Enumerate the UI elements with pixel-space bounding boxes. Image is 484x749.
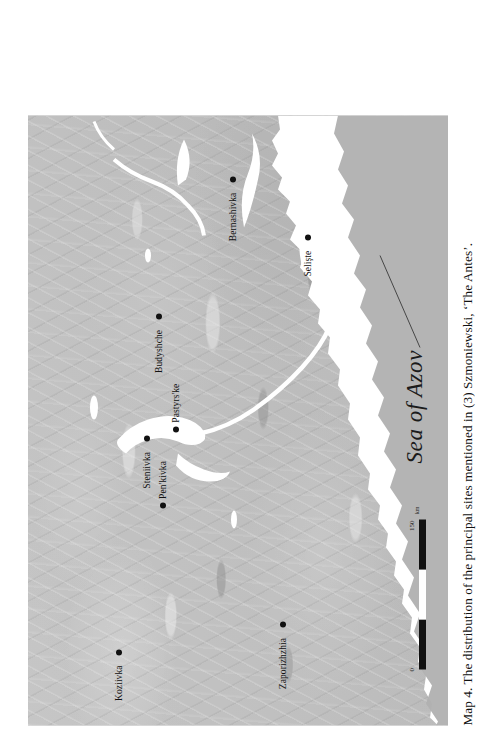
water-bodies (28, 115, 448, 725)
dnieper-reservoir-shape (117, 415, 205, 453)
site-label: Selişte (303, 250, 313, 276)
site-dot-icon (144, 435, 150, 441)
dnieper-reservoir-tail (176, 453, 230, 481)
site-label: Pen'kivka (158, 460, 168, 498)
western-river-2 (94, 121, 114, 149)
map-image: Sea of Azov KoziivkaPen'kivkaSteniivkaPa… (28, 115, 448, 725)
site-dot-icon (173, 426, 179, 432)
site-dot-icon (280, 621, 286, 627)
page-canvas: Sea of Azov KoziivkaPen'kivkaSteniivkaPa… (0, 0, 484, 749)
scale-segment (419, 619, 426, 669)
scale-bar: 0 150 km (409, 519, 426, 669)
scale-unit-label: km (414, 506, 420, 514)
lagoon-streak-2 (242, 133, 260, 227)
lake-1 (90, 395, 98, 419)
scale-bar-ticks: 0 150 km (409, 519, 419, 669)
lake-2 (231, 510, 237, 528)
figure-plate: Sea of Azov KoziivkaPen'kivkaSteniivkaPa… (0, 0, 484, 749)
site-label: Budyshche (154, 329, 164, 372)
site-label: Steniivka (142, 451, 152, 488)
site-dot-icon (156, 313, 162, 319)
site-dot-icon (116, 649, 122, 655)
lagoon-streak-3 (177, 139, 190, 185)
western-river (114, 159, 204, 235)
scale-bar-segments (419, 519, 426, 669)
site-dot-icon (230, 176, 236, 182)
dnieper-channel (200, 325, 330, 433)
site-label: Koziivka (114, 665, 124, 701)
site-label: Pastyrs'ke (171, 383, 181, 422)
site-label: Bernashivka (228, 192, 238, 241)
site-label: Zaporizhzhia (278, 637, 288, 688)
scale-segment (419, 519, 426, 569)
site-dot-icon (305, 234, 311, 240)
lake-3 (145, 248, 151, 262)
scale-max-label: 150 (408, 520, 416, 531)
scale-min-label: 0 (408, 668, 416, 672)
scale-segment (419, 569, 426, 619)
sea-of-azov-label: Sea of Azov (402, 350, 428, 464)
figure-caption: Map 4. The distribution of the principal… (460, 25, 476, 725)
